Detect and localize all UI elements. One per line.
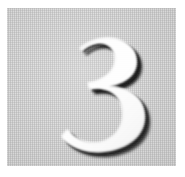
numeral-three-icon — [7, 8, 176, 166]
image-canvas — [0, 0, 185, 177]
gray-plate — [7, 8, 176, 166]
numeral-glyph — [7, 8, 176, 166]
